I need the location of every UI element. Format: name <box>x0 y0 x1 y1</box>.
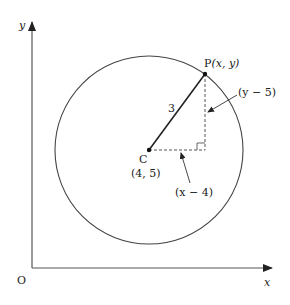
origin-label: O <box>17 274 26 287</box>
circle-diagram: y x O 3 C (4, 5) P(x, y) (y − 5) (x − 4) <box>0 0 290 305</box>
right-angle-marker <box>197 143 205 150</box>
y-axis-label: y <box>18 19 26 32</box>
vertical-leg-pointer <box>208 95 237 112</box>
point-p <box>203 72 207 76</box>
center-point <box>147 148 151 152</box>
vertical-leg-label: (y − 5) <box>238 86 276 99</box>
point-p-label: P(x, y) <box>204 57 239 70</box>
radius-label: 3 <box>168 102 175 115</box>
radius-line <box>149 74 205 150</box>
center-label: C <box>139 153 147 166</box>
horizontal-leg-label: (x − 4) <box>175 186 213 199</box>
horizontal-leg-pointer <box>181 153 190 183</box>
x-axis-label: x <box>264 276 271 289</box>
center-coords: (4, 5) <box>131 167 161 180</box>
